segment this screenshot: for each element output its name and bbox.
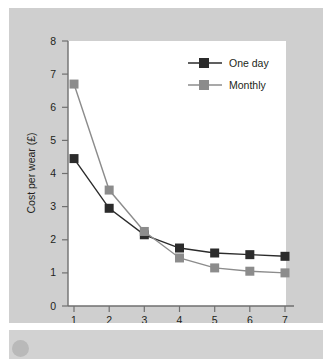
y-tick-label: 0 xyxy=(50,300,56,312)
y-tick-label: 2 xyxy=(50,233,56,245)
x-tick-label: 2 xyxy=(106,314,112,323)
y-tick-label: 3 xyxy=(50,200,56,212)
y-tick-label: 1 xyxy=(50,266,56,278)
data-point-marker xyxy=(105,186,114,195)
x-tick-label: 4 xyxy=(177,314,183,323)
data-point-marker xyxy=(140,227,149,236)
chart-figure: 0 1 2 3 4 5 6 7 8 1 2 3 4 5 6 xyxy=(0,0,335,359)
y-tick-label: 6 xyxy=(50,101,56,113)
x-axis-tick-labels: 1 2 3 4 5 6 7 xyxy=(71,314,288,323)
data-point-marker xyxy=(210,263,219,272)
x-tick-label: 1 xyxy=(71,314,77,323)
y-tick-label: 8 xyxy=(50,35,56,47)
data-point-marker xyxy=(281,268,290,277)
line-chart: 0 1 2 3 4 5 6 7 8 1 2 3 4 5 6 xyxy=(9,8,323,323)
legend-label-one-day: One day xyxy=(229,57,269,69)
data-point-marker xyxy=(210,249,219,258)
legend-label-monthly: Monthly xyxy=(229,79,267,91)
data-point-marker xyxy=(245,267,254,276)
data-series-layer xyxy=(70,80,290,278)
chart-legend: One day Monthly xyxy=(188,57,269,91)
y-tick-label: 7 xyxy=(50,68,56,80)
y-tick-label: 5 xyxy=(50,134,56,146)
x-tick-label: 3 xyxy=(141,314,147,323)
data-point-marker xyxy=(105,204,114,213)
data-point-marker xyxy=(175,244,184,253)
data-point-marker xyxy=(245,250,254,259)
y-axis-ticks xyxy=(62,41,68,306)
y-tick-label: 4 xyxy=(50,167,56,179)
legend-marker-one-day xyxy=(199,58,209,68)
x-axis-ticks xyxy=(74,306,285,312)
x-tick-label: 5 xyxy=(212,314,218,323)
y-axis-tick-labels: 0 1 2 3 4 5 6 7 8 xyxy=(50,35,56,312)
legend-entry-monthly: Monthly xyxy=(188,79,267,91)
data-point-marker xyxy=(175,253,184,262)
data-point-marker xyxy=(70,154,79,163)
x-tick-label: 6 xyxy=(247,314,253,323)
y-axis-title: Cost per wear (£) xyxy=(25,132,37,213)
legend-marker-monthly xyxy=(199,80,209,90)
x-tick-label: 7 xyxy=(282,314,288,323)
data-point-marker xyxy=(70,80,79,89)
legend-entry-one-day: One day xyxy=(188,57,269,69)
caption-bar xyxy=(9,330,323,359)
data-point-marker xyxy=(281,252,290,261)
caption-bullet-icon xyxy=(12,340,29,357)
